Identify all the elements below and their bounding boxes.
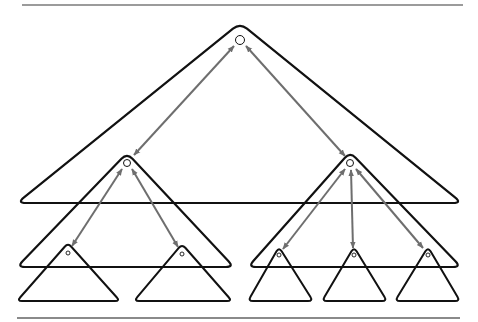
tree-nodes bbox=[66, 36, 430, 258]
leaf-4-node-circle bbox=[352, 253, 356, 257]
triangle-mid-left bbox=[20, 156, 230, 267]
arrow-mid-right-to-leaf-3 bbox=[283, 169, 345, 249]
leaf-3-node-circle bbox=[277, 253, 281, 257]
arrow-root-to-mid-right bbox=[246, 46, 345, 156]
leaf-1-node-circle bbox=[66, 251, 70, 255]
subtree-triangles bbox=[19, 26, 458, 301]
horizontal-rules bbox=[17, 5, 463, 318]
mid-left-node-circle bbox=[124, 160, 131, 167]
arrow-mid-right-to-leaf-5 bbox=[356, 169, 423, 248]
tree-diagram bbox=[0, 0, 478, 322]
arrow-root-to-mid-left bbox=[134, 46, 234, 155]
root-node-circle bbox=[236, 36, 245, 45]
bidirectional-arrows bbox=[72, 46, 423, 249]
triangle-root bbox=[21, 26, 458, 203]
arrow-mid-left-to-leaf-1 bbox=[72, 169, 122, 246]
arrow-mid-left-to-leaf-2 bbox=[132, 169, 178, 247]
leaf-5-node-circle bbox=[426, 253, 430, 257]
arrow-mid-right-to-leaf-4 bbox=[351, 170, 353, 248]
mid-right-node-circle bbox=[347, 160, 354, 167]
leaf-2-node-circle bbox=[180, 252, 184, 256]
